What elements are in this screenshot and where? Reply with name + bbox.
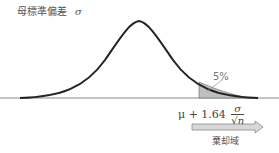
formula-prefix: μ + 1.64 xyxy=(178,108,226,121)
rejection-area-shade xyxy=(199,82,250,98)
percent-label: 5% xyxy=(213,71,229,82)
rejection-region-label: 棄却域 xyxy=(212,134,239,147)
bell-curve xyxy=(20,21,258,98)
formula-denominator: √n xyxy=(231,115,244,127)
critical-value-formula: μ + 1.64 σ √n xyxy=(178,103,244,127)
formula-fraction: σ √n xyxy=(231,103,244,127)
normal-distribution-graphic xyxy=(0,0,279,153)
formula-numerator: σ xyxy=(231,103,244,115)
